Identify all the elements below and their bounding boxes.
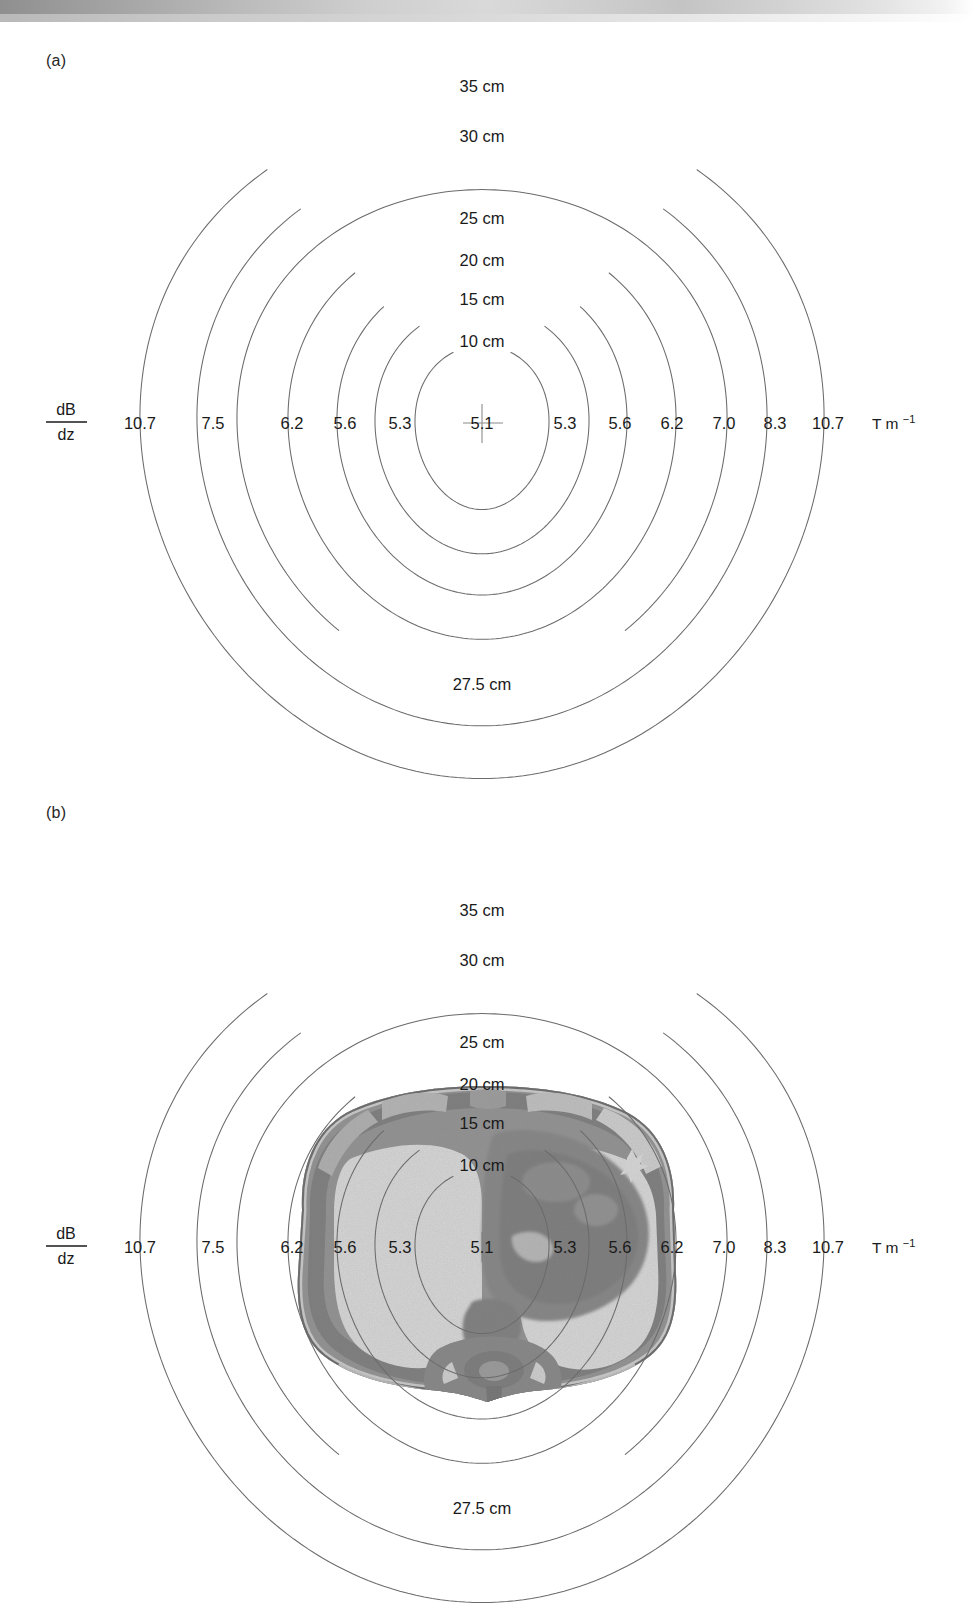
axis-tick-left-7-5: 7.5 (202, 414, 225, 432)
axis-tick-right-5-6: 5.6 (609, 1238, 632, 1256)
panel-b: (b) (0, 762, 974, 1609)
axis-tick-right-8-3: 8.3 (764, 1238, 787, 1256)
panel-a-contour-plot: 35 cm30 cm25 cm20 cm15 cm10 cm27.5 cm 10… (0, 0, 974, 790)
axis-tick-left-5-6: 5.6 (334, 414, 357, 432)
axis-tick-right-7-0: 7.0 (713, 1238, 736, 1256)
axis-tick-left-7-5: 7.5 (202, 1238, 225, 1256)
ring-label-25-cm: 25 cm (460, 1033, 505, 1051)
contour-ring-25cm (288, 273, 676, 639)
axis-tick-right-10-7: 10.7 (812, 414, 844, 432)
axis-tick-left-5-3: 5.3 (389, 414, 412, 432)
axis-tick-right-6-2: 6.2 (661, 414, 684, 432)
y-axis-label-dbdz: dBdz (46, 401, 87, 443)
panel-a: (a) 35 cm30 cm25 cm20 cm15 cm10 cm27.5 c… (0, 0, 974, 790)
axis-tick-right-7-0: 7.0 (713, 414, 736, 432)
axis-tick-right-5-3: 5.3 (554, 414, 577, 432)
axis-tick-left-5-3: 5.3 (389, 1238, 412, 1256)
contour-ring-labels-a: 35 cm30 cm25 cm20 cm15 cm10 cm27.5 cm (453, 77, 512, 693)
ring-label-35-cm: 35 cm (460, 901, 505, 919)
ring-label-10-cm: 10 cm (460, 1156, 505, 1174)
ring-label-30-cm: 30 cm (460, 127, 505, 145)
contour-ring-30cm (197, 209, 767, 726)
ring-label-20-cm: 20 cm (460, 1075, 505, 1093)
dbdz-denominator: dz (58, 426, 75, 443)
axis-tick-centre: 5.1 (471, 1238, 494, 1256)
ring-label-35-cm: 35 cm (460, 77, 505, 95)
axis-tick-right-5-6: 5.6 (609, 414, 632, 432)
axis-tick-right-5-3: 5.3 (554, 1238, 577, 1256)
axis-unit-text: T m −1 (872, 1237, 915, 1256)
ring-label-20-cm: 20 cm (460, 251, 505, 269)
axis-tick-left-6-2: 6.2 (281, 414, 304, 432)
axis-tick-right-8-3: 8.3 (764, 414, 787, 432)
dbdz-numerator: dB (56, 1225, 76, 1242)
dbdz-numerator: dB (56, 401, 76, 418)
ring-label-15-cm: 15 cm (460, 1114, 505, 1132)
axis-unit-label: T m −1 (872, 413, 915, 432)
axis-tick-right-6-2: 6.2 (661, 1238, 684, 1256)
ring-label-30-cm: 30 cm (460, 951, 505, 969)
ring-label-25-cm: 25 cm (460, 209, 505, 227)
axis-tick-right-10-7: 10.7 (812, 1238, 844, 1256)
axis-labels-a: 10.77.56.25.65.35.15.35.66.27.08.310.7dB… (46, 401, 915, 443)
axis-tick-left-5-6: 5.6 (334, 1238, 357, 1256)
ring-label-15-cm: 15 cm (460, 290, 505, 308)
ring-label-27-5-cm: 27.5 cm (453, 1499, 512, 1517)
ring-label-27-5-cm: 27.5 cm (453, 675, 512, 693)
y-axis-label-dbdz: dBdz (46, 1225, 87, 1267)
axis-tick-left-10-7: 10.7 (124, 1238, 156, 1256)
ring-label-10-cm: 10 cm (460, 332, 505, 350)
axis-tick-left-6-2: 6.2 (281, 1238, 304, 1256)
axis-tick-centre: 5.1 (471, 414, 494, 432)
panel-b-contour-plot: 35 cm30 cm25 cm20 cm15 cm10 cm27.5 cm 10… (0, 762, 974, 1609)
axis-unit-label: T m −1 (872, 1237, 915, 1256)
dbdz-denominator: dz (58, 1250, 75, 1267)
axis-tick-left-10-7: 10.7 (124, 414, 156, 432)
axis-unit-text: T m −1 (872, 413, 915, 432)
